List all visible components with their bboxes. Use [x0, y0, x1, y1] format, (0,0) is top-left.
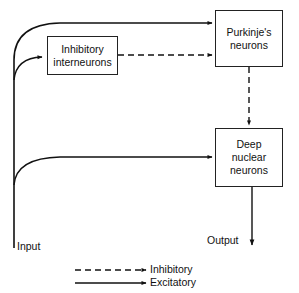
node-inhibitory-interneurons: Inhibitory interneurons	[47, 36, 118, 75]
node-label: Purkinje's	[226, 26, 271, 39]
node-label: Inhibitory	[53, 43, 111, 56]
node-label: Deep	[230, 138, 268, 151]
input-label: Input	[17, 240, 40, 252]
input-to-deep-line	[14, 157, 212, 185]
node-deep-nuclear-neurons: Deep nuclear neurons	[215, 128, 283, 187]
node-purkinje-neurons: Purkinje's neurons	[215, 10, 283, 67]
node-label: nuclear	[230, 151, 268, 164]
legend-excitatory-label: Excitatory	[150, 276, 196, 288]
output-label: Output	[207, 234, 239, 246]
legend-inhibitory-label: Inhibitory	[150, 263, 193, 275]
input-to-interneurons-line	[14, 57, 42, 80]
node-label: interneurons	[53, 56, 111, 69]
node-label: neurons	[230, 164, 268, 177]
node-label: neurons	[226, 39, 271, 52]
